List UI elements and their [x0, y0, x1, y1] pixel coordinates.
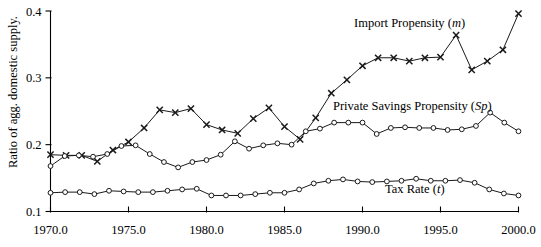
data-point-marker [341, 177, 346, 182]
data-point-marker [62, 154, 67, 159]
y-tick-label: 0.4 [26, 5, 42, 19]
data-point-marker [238, 193, 243, 198]
data-point-marker [136, 190, 141, 195]
data-point-marker [453, 32, 459, 38]
data-point-marker [289, 142, 294, 147]
series-line [51, 113, 519, 168]
data-point-marker [403, 125, 408, 130]
y-axis-title: Ratio of agg. domestic supply. [6, 16, 20, 168]
data-point-marker [445, 128, 450, 133]
data-point-marker [133, 143, 138, 148]
data-point-marker [147, 152, 152, 157]
data-point-marker [176, 165, 181, 170]
data-point-marker [500, 47, 506, 53]
y-tick-label: 0.2 [26, 138, 42, 152]
series-2 [48, 110, 521, 170]
y-tick-label: 0.3 [26, 71, 42, 85]
line-chart: Ratio of agg. domestic supply. 0.10.20.3… [0, 0, 541, 247]
data-point-marker [107, 188, 112, 193]
data-point-marker [162, 160, 167, 165]
data-point-marker [355, 179, 360, 184]
data-point-marker [515, 11, 521, 17]
data-point-marker [218, 152, 223, 157]
x-tick-label: 1985.0 [267, 223, 301, 237]
series-3 [48, 176, 521, 198]
data-point-marker [344, 77, 350, 83]
x-tick-label: 1970.0 [33, 223, 67, 237]
data-point-marker [297, 187, 302, 192]
data-point-marker [502, 120, 507, 125]
data-point-marker [105, 152, 110, 157]
data-point-marker [374, 132, 379, 137]
data-point-marker [250, 116, 256, 122]
data-point-marker [469, 67, 475, 73]
x-tick-label: 1995.0 [423, 223, 457, 237]
data-point-marker [180, 187, 185, 192]
data-point-marker [77, 190, 82, 195]
data-point-marker [311, 181, 316, 186]
data-point-marker [94, 158, 100, 164]
data-point-marker [360, 120, 365, 125]
data-point-marker [281, 124, 287, 130]
data-point-marker [48, 164, 53, 169]
data-point-marker [516, 193, 521, 198]
private-savings-propensity-annotation: Private Savings Propensity (Sp) [333, 99, 492, 113]
data-point-marker [417, 126, 422, 131]
data-point-marker [224, 193, 229, 198]
data-point-marker [188, 105, 194, 111]
series-1 [47, 11, 521, 165]
data-point-marker [266, 105, 272, 111]
data-point-marker [484, 58, 490, 64]
data-point-marker [247, 146, 252, 151]
data-point-marker [328, 90, 334, 96]
x-tick-label: 1980.0 [189, 223, 223, 237]
data-point-marker [516, 129, 521, 134]
data-point-marker [92, 192, 97, 197]
y-tick-label: 0.1 [26, 205, 42, 219]
data-point-marker [332, 120, 337, 125]
import-propensity-annotation: Import Propensity (m) [354, 16, 465, 30]
data-point-marker [204, 158, 209, 163]
data-point-marker [150, 190, 155, 195]
x-axis-tick-labels: 1970.01975.01980.01985.01990.01995.02000… [33, 223, 535, 237]
data-point-marker [370, 180, 375, 185]
data-point-marker [318, 126, 323, 131]
data-point-marker [326, 178, 331, 183]
data-point-marker [165, 188, 170, 193]
data-point-marker [121, 189, 126, 194]
tax-rate-annotation: Tax Rate (t) [385, 182, 445, 196]
data-point-marker [275, 141, 280, 146]
chart-container: Ratio of agg. domestic supply. 0.10.20.3… [0, 0, 541, 247]
data-point-marker [501, 191, 506, 196]
series-line [51, 14, 519, 162]
data-point-marker [194, 186, 199, 191]
data-point-marker [303, 129, 308, 134]
data-point-marker [282, 190, 287, 195]
data-point-marker [431, 126, 436, 131]
x-tick-label: 2000.0 [501, 223, 535, 237]
data-point-marker [232, 139, 237, 144]
data-point-marker [487, 187, 492, 192]
data-point-marker [414, 176, 419, 181]
y-axis-tick-labels: 0.10.20.30.4 [26, 5, 42, 220]
data-point-marker [63, 190, 68, 195]
data-point-marker [125, 139, 131, 145]
data-point-marker [472, 180, 477, 185]
data-point-marker [459, 127, 464, 132]
data-point-marker [388, 126, 393, 131]
data-point-marker [48, 190, 53, 195]
data-point-marker [313, 115, 319, 121]
data-point-marker [346, 120, 351, 125]
data-point-marker [359, 63, 365, 69]
data-point-marker [91, 154, 96, 159]
data-point-marker [119, 144, 124, 149]
data-point-marker [209, 193, 214, 198]
data-point-marker [458, 178, 463, 183]
data-point-marker [190, 160, 195, 165]
data-point-marker [76, 153, 81, 158]
x-tick-label: 1975.0 [111, 223, 145, 237]
data-point-marker [253, 192, 258, 197]
x-tick-label: 1990.0 [345, 223, 379, 237]
data-point-marker [203, 122, 209, 128]
data-point-marker [267, 190, 272, 195]
